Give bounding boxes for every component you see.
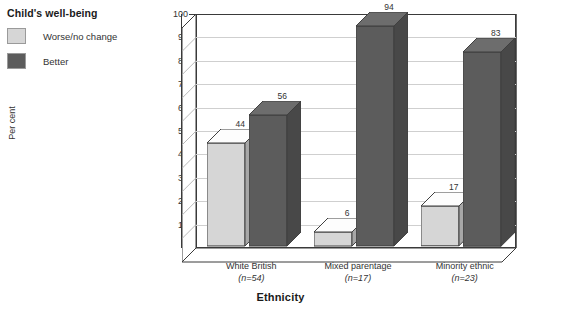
bar-worse-no-change-mixed-parentage — [314, 234, 352, 248]
chart-figure: Child's well-being Worse/no change Bette… — [0, 0, 561, 312]
y-axis-tick-mark — [189, 201, 195, 202]
bar-value-label: 94 — [370, 2, 408, 12]
bar-value-label: 6 — [328, 208, 366, 218]
y-axis-tick-label: 30 — [178, 173, 188, 183]
x-axis-category-name: Mixed parentage — [324, 261, 391, 271]
legend-title: Child's well-being — [7, 7, 167, 19]
legend-swatch-worse-no-change — [7, 28, 26, 44]
y-axis-tick-mark — [189, 131, 195, 132]
bar-3d-shape — [463, 38, 515, 248]
x-axis-title: Ethnicity — [0, 291, 561, 303]
bar-better-minority-ethnic — [463, 54, 501, 248]
bar-value-label: 56 — [263, 91, 301, 101]
y-axis-tick-mark — [189, 248, 195, 249]
bar-better-white-british — [249, 117, 287, 248]
y-axis-title: Per cent — [7, 91, 17, 155]
x-axis-category-count: (n=17) — [298, 272, 418, 284]
y-axis-tick-mark — [189, 178, 195, 179]
legend-swatch-better — [7, 53, 26, 69]
bar-value-label: 17 — [435, 182, 473, 192]
y-axis-tick-label: 90 — [178, 32, 188, 42]
legend-item-worse-no-change: Worse/no change — [7, 28, 167, 44]
y-axis-tick-label: 20 — [178, 196, 188, 206]
x-axis-category-count: (n=23) — [405, 272, 525, 284]
y-axis-tick-mark — [189, 37, 195, 38]
y-axis-tick-label: 80 — [178, 56, 188, 66]
bar-worse-no-change-white-british — [207, 145, 245, 248]
y-axis: 0102030405060708090100 — [160, 0, 196, 262]
chart-legend: Child's well-being Worse/no change Bette… — [7, 7, 167, 69]
x-axis-group-mixed-parentage: Mixed parentage(n=17) — [298, 260, 418, 284]
legend-item-better: Better — [7, 53, 167, 69]
y-axis-tick-mark — [189, 154, 195, 155]
y-axis-line — [181, 14, 182, 248]
y-axis-tick-mark — [189, 225, 195, 226]
y-axis-tick-label: 60 — [178, 103, 188, 113]
y-axis-tick-label: 40 — [178, 149, 188, 159]
x-axis-group-minority-ethnic: Minority ethnic(n=23) — [405, 260, 525, 284]
y-axis-tick-mark — [189, 108, 195, 109]
x-axis-category-count: (n=54) — [191, 272, 311, 284]
y-axis-tick-label: 70 — [178, 79, 188, 89]
y-axis-tick-mark — [189, 84, 195, 85]
y-axis-tick-label: 50 — [178, 126, 188, 136]
legend-label-worse-no-change: Worse/no change — [43, 31, 117, 42]
legend-label-better: Better — [43, 56, 68, 67]
bar-value-label: 44 — [221, 119, 259, 129]
y-axis-tick-label: 0 — [183, 243, 188, 253]
bar-value-label: 83 — [477, 28, 515, 38]
x-axis-category-name: White British — [226, 261, 277, 271]
y-axis-tick-mark — [189, 61, 195, 62]
y-axis-tick-label: 10 — [178, 220, 188, 230]
x-axis-category-name: Minority ethnic — [436, 261, 494, 271]
bar-worse-no-change-minority-ethnic — [421, 208, 459, 248]
y-axis-tick-mark — [189, 14, 195, 15]
x-axis-group-white-british: White British(n=54) — [191, 260, 311, 284]
